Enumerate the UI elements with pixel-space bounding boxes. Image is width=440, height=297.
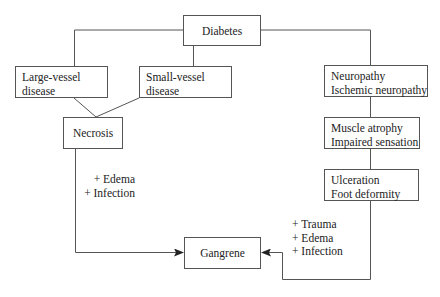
node-necrosis: Necrosis xyxy=(63,117,123,149)
factor-text: + Edema xyxy=(84,173,135,187)
factor-text: + Trauma xyxy=(292,218,343,232)
annotation-right-factors: + Trauma + Edema + Infection xyxy=(292,218,343,259)
node-necrosis-label: Necrosis xyxy=(73,126,113,140)
node-line: disease xyxy=(22,84,107,98)
node-line: Large-vessel xyxy=(22,70,107,84)
node-large-vessel-disease: Large-vessel disease xyxy=(15,66,108,98)
node-small-vessel-disease: Small-vessel disease xyxy=(139,66,232,98)
factor-text: + Infection xyxy=(84,187,135,201)
node-line: Neuropathy xyxy=(331,69,427,83)
edge-large-vessel-necrosis xyxy=(74,98,96,117)
factor-text: + Edema xyxy=(292,232,343,246)
node-line: Ulceration xyxy=(331,173,418,187)
node-diabetes-label: Diabetes xyxy=(202,24,242,38)
node-line: disease xyxy=(146,84,231,98)
annotation-left-factors: + Edema + Infection xyxy=(84,173,135,200)
node-gangrene: Gangrene xyxy=(184,237,261,269)
node-line: Impaired sensation xyxy=(331,135,419,149)
node-muscle-atrophy: Muscle atrophy Impaired sensation xyxy=(324,117,420,149)
node-line: Ischemic neuropathy xyxy=(331,83,427,97)
factor-text: + Infection xyxy=(292,245,343,259)
edge-small-vessel-necrosis xyxy=(96,98,139,117)
diabetes-gangrene-flowchart: Diabetes Large-vessel disease Small-vess… xyxy=(0,0,440,297)
node-ulceration: Ulceration Foot deformity xyxy=(324,169,419,201)
edge-diabetes-large-vessel xyxy=(75,30,184,66)
node-line: Muscle atrophy xyxy=(331,121,419,135)
node-diabetes: Diabetes xyxy=(183,15,261,46)
node-line: Foot deformity xyxy=(331,187,418,201)
edge-necrosis-gangrene xyxy=(76,148,184,253)
node-gangrene-label: Gangrene xyxy=(200,246,245,260)
edge-diabetes-neuropathy xyxy=(261,30,371,65)
node-line: Small-vessel xyxy=(146,70,231,84)
node-neuropathy: Neuropathy Ischemic neuropathy xyxy=(324,65,428,97)
